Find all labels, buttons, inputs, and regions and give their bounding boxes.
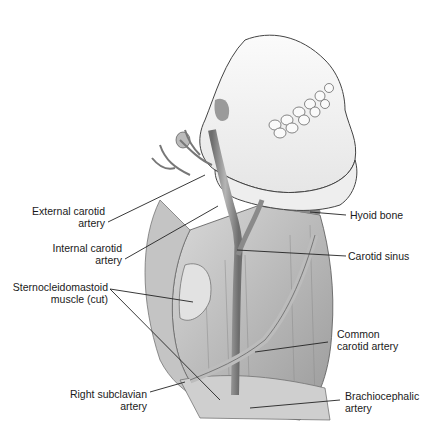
label-text: carotid artery: [337, 340, 398, 352]
label-text: artery: [40, 400, 147, 412]
label-text: Brachiocephalic: [345, 390, 419, 402]
label-text: artery: [10, 217, 105, 229]
label-text: Common: [337, 328, 398, 340]
label-external-carotid-artery: External carotid artery: [10, 205, 105, 229]
label-text: Carotid sinus: [348, 250, 409, 262]
label-right-subclavian-artery: Right subclavian artery: [40, 388, 147, 412]
label-text: artery: [20, 254, 122, 266]
skull-and-mandible: [176, 35, 357, 210]
label-internal-carotid-artery: Internal carotid artery: [20, 242, 122, 266]
anatomy-figure: External carotid artery Internal carotid…: [0, 0, 422, 428]
label-text: Sternocleidomastoid: [0, 281, 108, 293]
label-hyoid-bone: Hyoid bone: [350, 209, 403, 221]
label-carotid-sinus: Carotid sinus: [348, 250, 409, 262]
label-text: artery: [345, 402, 419, 414]
label-common-carotid-artery: Common carotid artery: [337, 328, 398, 352]
label-text: Internal carotid: [20, 242, 122, 254]
label-text: External carotid: [10, 205, 105, 217]
label-text: Hyoid bone: [350, 209, 403, 221]
label-text: Right subclavian: [40, 388, 147, 400]
label-text: muscle (cut): [0, 293, 108, 305]
label-sternocleidomastoid-muscle: Sternocleidomastoid muscle (cut): [0, 281, 108, 305]
label-brachiocephalic-artery: Brachiocephalic artery: [345, 390, 419, 414]
